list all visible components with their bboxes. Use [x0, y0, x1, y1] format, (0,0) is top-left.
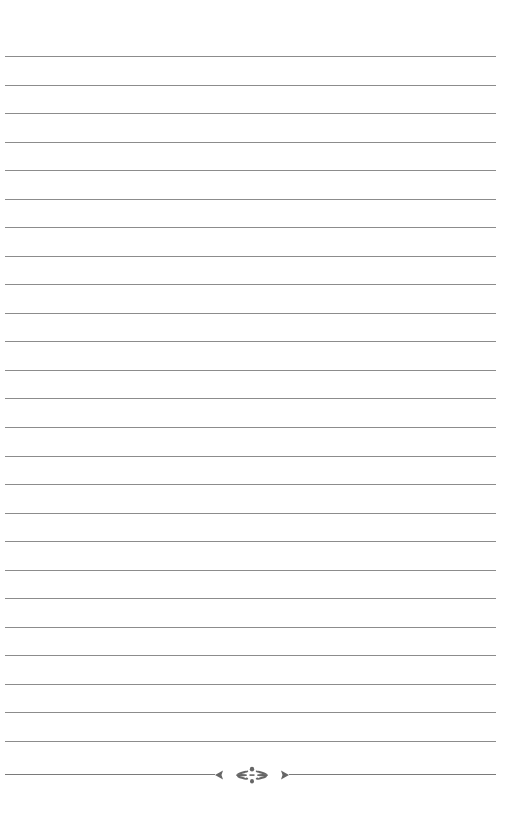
ruled-line	[5, 398, 496, 399]
ruled-line	[5, 627, 496, 628]
ruled-line	[5, 370, 496, 371]
ruled-line	[5, 598, 496, 599]
ruled-line	[5, 341, 496, 342]
divider-line-right	[289, 774, 496, 775]
ruled-line	[5, 456, 496, 457]
ruled-line	[5, 113, 496, 114]
ruled-line	[5, 170, 496, 171]
floral-divider-ornament-icon	[213, 766, 291, 784]
ruled-line	[5, 741, 496, 742]
ruled-line	[5, 256, 496, 257]
ruled-line	[5, 513, 496, 514]
ruled-line	[5, 313, 496, 314]
ruled-line	[5, 56, 496, 57]
ruled-line	[5, 85, 496, 86]
ruled-line	[5, 142, 496, 143]
ruled-line	[5, 199, 496, 200]
lined-page	[0, 0, 521, 814]
ruled-line	[5, 427, 496, 428]
ruled-line	[5, 655, 496, 656]
divider-line-left	[5, 774, 215, 775]
ruled-line	[5, 684, 496, 685]
ruled-line	[5, 284, 496, 285]
ruled-line	[5, 712, 496, 713]
footer-divider	[5, 766, 496, 784]
ruled-line	[5, 541, 496, 542]
ruled-line	[5, 227, 496, 228]
ruled-line	[5, 570, 496, 571]
ruled-line	[5, 484, 496, 485]
